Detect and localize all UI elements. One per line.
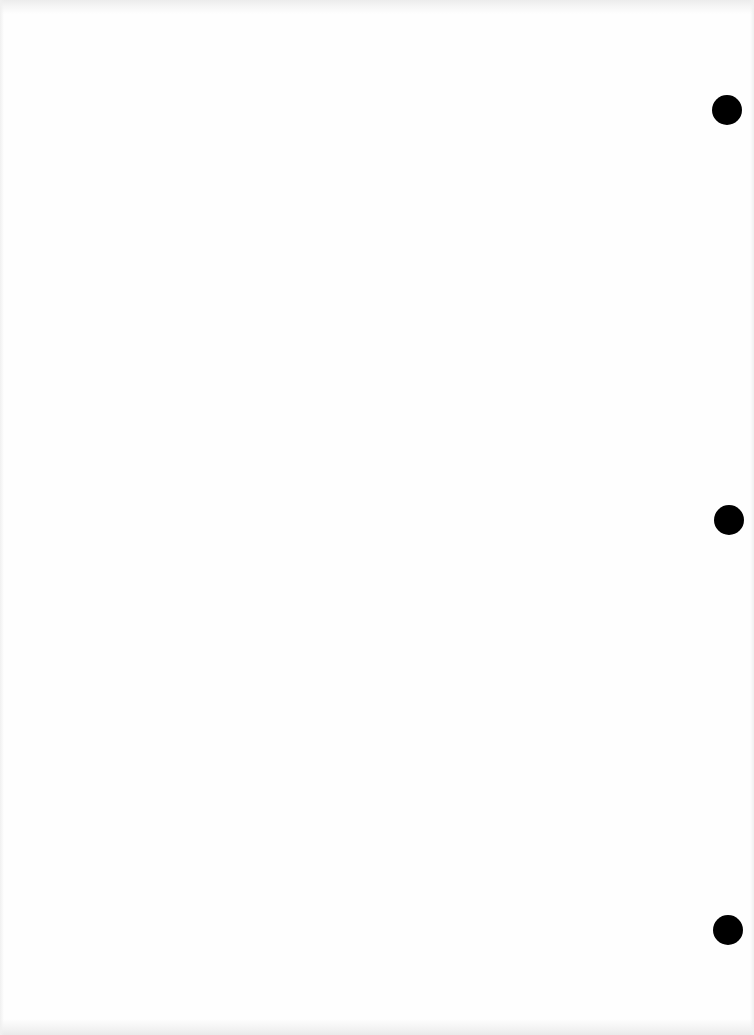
scan-edge-right [750,0,754,1035]
punch-hole [714,505,744,535]
scan-edge-top [0,0,754,14]
punch-hole [713,915,743,945]
punch-hole [712,95,742,125]
scan-edge-left [0,0,4,1035]
scanned-page [0,0,754,1035]
page-content [60,60,660,960]
scan-edge-bottom [0,1019,754,1035]
